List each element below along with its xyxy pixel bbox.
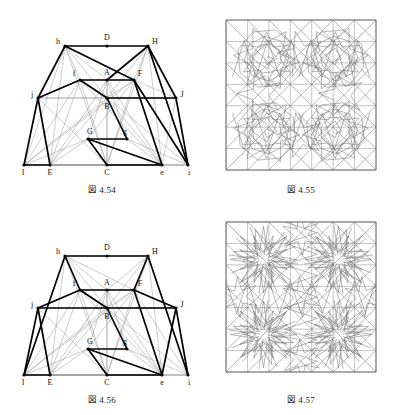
figure-kanji-icon: 図 — [287, 392, 296, 404]
figure-4-57-canvas — [226, 222, 376, 372]
pattern-square — [307, 103, 364, 160]
graph-edge-thin — [88, 80, 134, 139]
graph-edge-thin — [65, 46, 107, 98]
graph-vertex-f — [78, 78, 81, 81]
figure-kanji-icon: 図 — [287, 182, 296, 194]
vertex-label-A: A — [104, 68, 110, 77]
graph-edge-thin — [107, 290, 134, 308]
vertex-label-J: J — [180, 300, 183, 309]
graph-edge-thin — [50, 290, 80, 375]
pattern-diagonal — [397, 222, 408, 372]
vertex-label-f: f — [73, 69, 76, 78]
vertex-label-I: I — [22, 168, 25, 177]
graph-edge-thick — [24, 98, 38, 165]
figure-4-55-caption: 図4.55 — [226, 182, 376, 195]
vertex-label-C: C — [104, 378, 109, 387]
pattern-diagonal — [397, 222, 408, 372]
vertex-label-h: h — [56, 247, 60, 256]
figure-4-54-caption: 図4.54 — [0, 182, 204, 195]
graph-edge-thick — [148, 46, 188, 165]
graph-edge-thick — [134, 290, 176, 308]
graph-vertex-g — [125, 137, 128, 140]
figure-4-54: hDHfAFjBJGgIECei — [0, 8, 204, 183]
graph-vertex-C — [105, 163, 108, 166]
graph-edge-thick — [38, 46, 65, 98]
graph-edge-thin — [107, 80, 134, 98]
graph-edge-thin — [127, 349, 162, 375]
graph-vertex-A — [105, 78, 108, 81]
pattern-center-star — [318, 72, 362, 117]
graph-vertex-I — [22, 373, 25, 376]
graph-edge-thin — [80, 290, 162, 375]
pattern-diagonal — [312, 20, 408, 170]
graph-vertex-H — [146, 254, 149, 257]
pattern-diagonal — [355, 20, 408, 170]
graph-edge-thick — [148, 256, 188, 375]
graph-edge-thick — [80, 80, 107, 98]
vertex-label-B: B — [104, 312, 109, 321]
vertex-label-D: D — [104, 243, 110, 252]
pattern-square — [307, 30, 364, 87]
graph-vertex-e — [160, 163, 163, 166]
graph-edge-thin — [50, 80, 80, 165]
vertex-label-B: B — [104, 102, 109, 111]
figure-kanji-icon: 図 — [88, 182, 97, 194]
pattern-diagonal — [355, 20, 408, 170]
vertex-label-E: E — [48, 378, 53, 387]
vertex-label-I: I — [22, 378, 25, 387]
textbook-page: hDHfAFjBJGgIECei 図4.54 図4.55 hDHfAFjBJGg… — [0, 0, 408, 415]
graph-vertex-h — [63, 254, 66, 257]
graph-edge-thin — [50, 256, 65, 375]
graph-vertex-g — [125, 347, 128, 350]
graph-vertex-j — [36, 306, 39, 309]
vertex-label-G: G — [87, 337, 93, 346]
figure-4-55 — [226, 20, 376, 170]
graph-edge-thick — [176, 308, 188, 375]
graph-edge-thin — [50, 98, 107, 165]
vertex-label-A: A — [104, 278, 110, 287]
vertex-label-F: F — [138, 69, 143, 78]
vertex-label-i: i — [188, 378, 191, 387]
graph-edge-thin — [107, 290, 162, 375]
vertex-label-F: F — [138, 279, 143, 288]
vertex-label-h: h — [56, 37, 60, 46]
graph-vertex-e — [160, 373, 163, 376]
graph-edge-thick — [88, 139, 162, 165]
vertex-label-i: i — [188, 168, 191, 177]
graph-edge-thick — [88, 349, 162, 375]
graph-edge-thin — [88, 290, 134, 349]
vertex-label-e: e — [160, 378, 164, 387]
pattern-square — [238, 103, 295, 160]
graph-vertex-E — [48, 163, 51, 166]
vertex-label-g: g — [123, 127, 127, 136]
graph-edge-thin — [65, 256, 107, 308]
pattern-diagonal — [333, 20, 408, 170]
graph-vertex-H — [146, 44, 149, 47]
figure-4-57-caption: 図4.57 — [226, 392, 376, 405]
pattern-diagonal — [355, 222, 408, 372]
figure-number: 4.57 — [298, 395, 315, 405]
graph-vertex-G — [86, 347, 89, 350]
graph-vertex-G — [86, 137, 89, 140]
pattern-diagonal — [397, 20, 408, 170]
graph-edge-thick — [134, 80, 162, 165]
graph-edge-thick — [134, 290, 162, 375]
vertex-label-C: C — [104, 168, 109, 177]
graph-vertex-E — [48, 373, 51, 376]
figure-4-56-canvas: hDHfAFjBJGgIECei — [0, 218, 204, 393]
pattern-diagonal — [397, 20, 408, 170]
figure-number: 4.54 — [99, 185, 116, 195]
pattern-square — [238, 30, 295, 87]
figure-4-56: hDHfAFjBJGgIECei — [0, 218, 204, 393]
pattern-diagonal — [376, 20, 408, 170]
graph-vertex-F — [132, 78, 135, 81]
vertex-label-G: G — [87, 127, 93, 136]
vertex-label-j: j — [30, 300, 33, 309]
figure-kanji-icon: 図 — [88, 392, 97, 404]
vertex-label-E: E — [48, 168, 53, 177]
pattern-diagonal — [312, 20, 408, 170]
figure-4-54-canvas: hDHfAFjBJGgIECei — [0, 8, 204, 183]
figure-number: 4.55 — [298, 185, 315, 195]
graph-vertex-B — [105, 306, 108, 309]
pattern-diagonal — [376, 20, 408, 170]
